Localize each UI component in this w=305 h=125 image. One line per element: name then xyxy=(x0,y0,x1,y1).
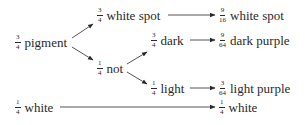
node-label: dark purple xyxy=(230,34,290,47)
fraction: 9 64 xyxy=(219,32,226,49)
node-label: white xyxy=(229,101,258,114)
node-label: pigment xyxy=(25,36,68,49)
arrow-not-to-dark xyxy=(127,52,147,64)
arrow-pigment-to-white-spot xyxy=(72,24,93,38)
fraction: 1 4 xyxy=(151,80,157,97)
fraction: 3 4 xyxy=(15,34,21,51)
node-light-purple: 3 64 light purple xyxy=(219,80,290,97)
arrow-not-to-light xyxy=(127,72,147,84)
fraction: 1 4 xyxy=(15,99,21,116)
fraction: 1 4 xyxy=(219,99,225,116)
node-label: not xyxy=(107,62,124,75)
node-light: 1 4 light xyxy=(151,80,184,97)
fraction: 3 4 xyxy=(97,7,103,24)
node-label: dark xyxy=(161,34,184,47)
node-dark: 3 4 dark xyxy=(151,32,184,49)
node-white: 1 4 white xyxy=(15,99,53,116)
node-label: light purple xyxy=(230,82,290,95)
arrow-pigment-to-not xyxy=(72,47,93,60)
node-white-result: 1 4 white xyxy=(219,99,257,116)
node-not: 1 4 not xyxy=(97,60,123,77)
node-white-spot-result: 9 16 white spot xyxy=(219,7,284,24)
node-dark-purple: 9 64 dark purple xyxy=(219,32,290,49)
node-label: white xyxy=(25,101,54,114)
fraction: 3 4 xyxy=(151,32,157,49)
fraction: 1 4 xyxy=(97,60,103,77)
fraction: 9 16 xyxy=(219,7,226,24)
node-label: light xyxy=(161,82,185,95)
node-pigment: 3 4 pigment xyxy=(15,34,67,51)
node-label: white spot xyxy=(107,9,161,22)
node-label: white spot xyxy=(230,9,284,22)
fraction: 3 64 xyxy=(219,80,226,97)
node-white-spot: 3 4 white spot xyxy=(97,7,160,24)
